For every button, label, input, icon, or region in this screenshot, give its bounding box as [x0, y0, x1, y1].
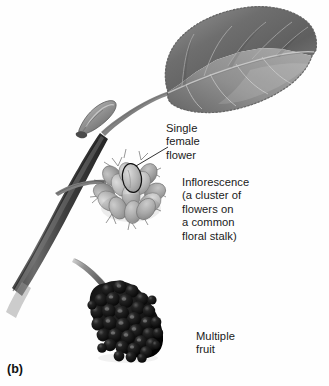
multiple-fruit	[87, 280, 163, 363]
terminal-bud	[76, 101, 116, 139]
leader-line-single-female-flower	[136, 147, 168, 166]
panel-letter: (b)	[7, 362, 23, 376]
inflorescence-cluster	[90, 149, 169, 230]
botanical-figure-panel: Single female flower Inflorescence (a cl…	[0, 0, 329, 386]
fruit-stalk	[72, 258, 107, 288]
label-inflorescence: Inflorescence (a cluster of flowers on a…	[182, 176, 249, 243]
leaf	[165, 7, 316, 113]
illustration-canvas	[0, 0, 329, 386]
label-single-female-flower: Single female flower	[166, 122, 200, 162]
label-multiple-fruit: Multiple fruit	[196, 330, 235, 357]
